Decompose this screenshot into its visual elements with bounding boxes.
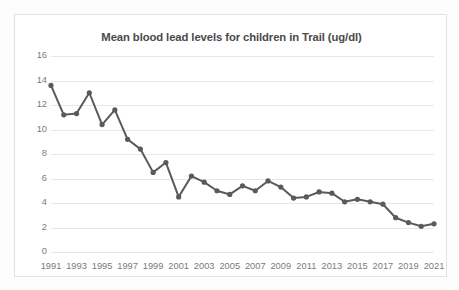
y-tick-label: 6	[29, 174, 47, 183]
y-tick-label: 16	[29, 51, 47, 60]
data-point-marker	[151, 170, 156, 175]
data-point-marker	[431, 221, 436, 226]
data-point-marker	[112, 107, 117, 112]
data-point-marker	[342, 199, 347, 204]
x-tick-label: 2007	[245, 262, 266, 271]
x-tick-label: 2015	[347, 262, 368, 271]
x-tick-label: 2013	[322, 262, 343, 271]
x-tick-label: 1999	[143, 262, 164, 271]
y-axis: 0246810121416	[29, 56, 47, 252]
data-point-marker	[61, 112, 66, 117]
data-point-marker	[304, 194, 309, 199]
x-tick-label: 1995	[92, 262, 113, 271]
x-tick-label: 1993	[66, 262, 87, 271]
data-point-marker	[393, 215, 398, 220]
data-point-marker	[329, 191, 334, 196]
data-point-marker	[99, 122, 104, 127]
y-tick-label: 2	[29, 223, 47, 232]
data-point-marker	[189, 173, 194, 178]
x-tick-label: 2003	[194, 262, 215, 271]
data-point-marker	[125, 137, 130, 142]
data-point-marker	[355, 197, 360, 202]
data-point-marker	[368, 199, 373, 204]
y-tick-label: 4	[29, 198, 47, 207]
data-point-marker	[87, 90, 92, 95]
y-tick-label: 0	[29, 247, 47, 256]
series-markers	[48, 83, 436, 229]
data-point-marker	[202, 180, 207, 185]
x-tick-label: 2009	[270, 262, 291, 271]
gridline	[51, 252, 434, 253]
y-tick-label: 8	[29, 149, 47, 158]
x-tick-label: 2019	[398, 262, 419, 271]
x-tick-label: 2021	[424, 262, 445, 271]
data-point-marker	[406, 220, 411, 225]
chart-container: Mean blood lead levels for children in T…	[14, 14, 447, 277]
y-tick-label: 12	[29, 100, 47, 109]
chart-title: Mean blood lead levels for children in T…	[15, 31, 448, 43]
series-polyline	[51, 85, 434, 226]
x-tick-label: 2005	[219, 262, 240, 271]
data-point-marker	[291, 196, 296, 201]
data-point-marker	[419, 224, 424, 229]
x-tick-label: 2001	[168, 262, 189, 271]
line-series	[51, 56, 434, 252]
data-point-marker	[253, 188, 258, 193]
x-tick-label: 1991	[41, 262, 62, 271]
x-tick-label: 1997	[117, 262, 138, 271]
data-point-marker	[74, 111, 79, 116]
data-point-marker	[163, 160, 168, 165]
y-tick-label: 14	[29, 76, 47, 85]
y-tick-label: 10	[29, 125, 47, 134]
data-point-marker	[380, 202, 385, 207]
data-point-marker	[138, 147, 143, 152]
x-axis: 1991199319951997199920012003200520072009…	[51, 262, 434, 278]
screenshot-root: Mean blood lead levels for children in T…	[0, 0, 459, 290]
x-tick-label: 2011	[296, 262, 316, 271]
x-tick-label: 2017	[373, 262, 394, 271]
data-point-marker	[176, 194, 181, 199]
data-point-marker	[48, 83, 53, 88]
data-point-marker	[278, 184, 283, 189]
data-point-marker	[265, 178, 270, 183]
data-point-marker	[317, 189, 322, 194]
data-point-marker	[214, 188, 219, 193]
data-point-marker	[227, 192, 232, 197]
data-point-marker	[240, 183, 245, 188]
plot-area	[51, 56, 434, 252]
